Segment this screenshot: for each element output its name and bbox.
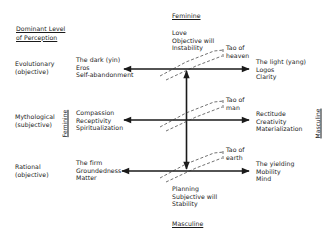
tao-heaven-dashes — [160, 49, 224, 80]
tao-man-dashes — [160, 100, 224, 131]
tao-earth-dashes — [160, 151, 224, 182]
diagram-lines — [0, 0, 332, 237]
